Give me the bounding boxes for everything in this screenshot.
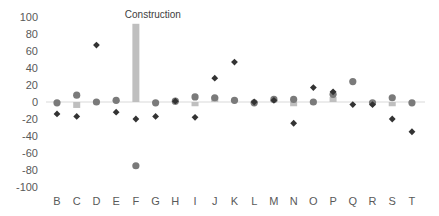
bar-C [73,102,80,108]
circle-marker-B [53,99,60,106]
diamond-marker-F [132,116,139,123]
diamond-marker-C [73,113,80,120]
diamond-marker-E [113,109,120,116]
circle-marker-F [132,162,139,169]
circle-marker-series [53,78,415,169]
circle-marker-I [191,93,198,100]
y-tick-label: -80 [22,164,38,176]
annotation-label: Construction [125,9,181,20]
circle-marker-J [211,94,218,101]
y-tick-label: -20 [22,113,38,125]
chart-annotations: Construction [125,9,181,20]
y-tick-label: -40 [22,130,38,142]
diamond-marker-J [211,75,218,82]
y-tick-label: 20 [26,79,38,91]
y-tick-label: 60 [26,45,38,57]
diamond-marker-B [54,111,61,118]
circle-marker-D [93,98,100,105]
x-tick-label: R [369,195,377,207]
x-tick-label: P [329,195,336,207]
diamond-marker-K [231,59,238,66]
y-axis: 100806040200-20-40-60-80-100 [16,11,38,193]
x-tick-label: B [53,195,60,207]
x-tick-label: N [290,195,298,207]
circle-marker-C [73,92,80,99]
x-tick-label: K [231,195,239,207]
x-tick-label: H [171,195,179,207]
bar-I [192,102,199,106]
x-tick-label: E [112,195,119,207]
x-tick-label: C [73,195,81,207]
x-tick-label: G [151,195,160,207]
x-tick-label: D [92,195,100,207]
circle-marker-N [290,96,297,103]
bar-series [73,24,396,108]
circle-marker-S [389,94,396,101]
y-tick-label: -60 [22,147,38,159]
y-tick-label: -100 [16,181,38,193]
x-tick-label: S [389,195,396,207]
x-tick-label: O [309,195,318,207]
bar-F [132,24,139,102]
diamond-marker-S [389,116,396,123]
x-tick-label: M [269,195,278,207]
diamond-marker-G [152,113,159,120]
chart: 100806040200-20-40-60-80-100 BCDEFGHIJKL… [0,0,439,216]
x-tick-label: F [133,195,140,207]
diamond-marker-N [290,120,297,127]
x-tick-label: Q [349,195,358,207]
diamond-marker-I [192,114,199,121]
x-tick-label: J [212,195,218,207]
x-tick-label: L [251,195,257,207]
diamond-marker-O [310,84,317,91]
y-tick-label: 40 [26,62,38,74]
x-axis: BCDEFGHIJKLMNOPQRST [53,195,415,207]
circle-marker-K [231,97,238,104]
diamond-marker-series [54,42,416,135]
diamond-marker-T [409,128,416,135]
circle-marker-E [113,97,120,104]
x-tick-label: I [194,195,197,207]
chart-plot-area: 100806040200-20-40-60-80-100 BCDEFGHIJKL… [0,0,439,216]
circle-marker-O [310,98,317,105]
circle-marker-Q [349,78,356,85]
circle-marker-T [408,99,415,106]
y-tick-label: 80 [26,28,38,40]
y-tick-label: 100 [20,11,38,23]
diamond-marker-D [93,42,100,49]
y-tick-label: 0 [32,96,38,108]
circle-marker-G [152,99,159,106]
x-tick-label: T [409,195,416,207]
bar-S [389,102,396,106]
